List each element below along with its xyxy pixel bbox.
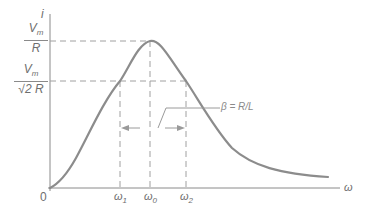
subscript: 0 — [153, 196, 157, 205]
symbol: ω — [144, 190, 153, 202]
right-arrow-icon — [165, 125, 185, 131]
origin-label: 0 — [40, 190, 47, 204]
peak-value-label: Vm R — [24, 22, 48, 55]
y-axis-label: i — [41, 7, 44, 21]
half-power-value-label: Vm √2 R — [14, 63, 48, 96]
symbol: ω — [180, 190, 189, 202]
symbol: ω — [114, 190, 123, 202]
resonance-curve-figure — [0, 0, 374, 212]
omega2-label: ω2 — [180, 190, 193, 205]
numerator: V — [29, 21, 37, 35]
omega0-label: ω0 — [144, 190, 157, 205]
bandwidth-label: β = R/L — [221, 101, 254, 112]
numerator: V — [24, 62, 32, 76]
x-axis-label: ω — [344, 181, 353, 193]
subscript: 1 — [123, 196, 127, 205]
numerator-sub: m — [37, 28, 44, 37]
numerator-sub: m — [32, 69, 39, 78]
denominator: √2 R — [14, 82, 48, 96]
left-arrow-icon — [121, 125, 140, 131]
resonance-curve — [50, 41, 328, 188]
denominator: R — [24, 41, 48, 55]
omega1-label: ω1 — [114, 190, 127, 205]
subscript: 2 — [189, 196, 193, 205]
